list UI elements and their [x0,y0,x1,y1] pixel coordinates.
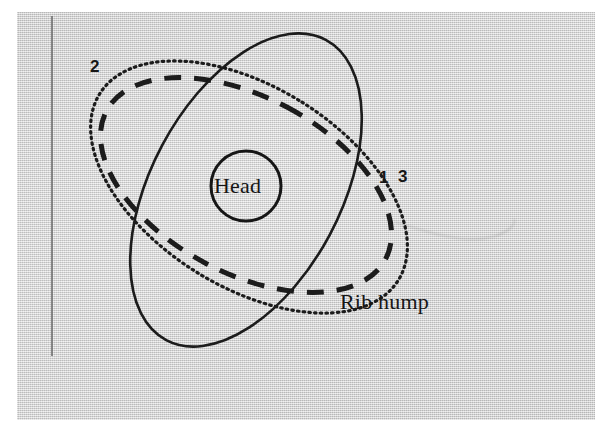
head-label: Head [214,175,261,197]
curve-label-1: 1 [379,169,388,186]
scan-crease-artifact [395,219,514,239]
curve-label-3: 3 [398,168,407,185]
curve-label-2: 2 [90,58,99,75]
figure-root: Head Rib hump 2 1 3 [0,0,611,430]
rib-hump-label: Rib hump [340,291,429,313]
